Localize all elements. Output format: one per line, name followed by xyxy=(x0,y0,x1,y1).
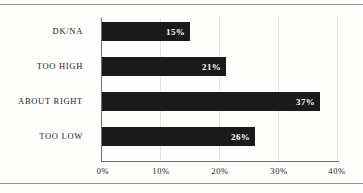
bar-value-label: 21% xyxy=(202,62,221,72)
category-label-too-high: TOO HIGH xyxy=(0,57,92,76)
bar-row: 21% xyxy=(101,57,338,76)
x-axis-line xyxy=(101,161,339,162)
x-tick-label-10: 10% xyxy=(141,166,181,176)
bar-row: 37% xyxy=(101,92,338,111)
horizontal-bar-chart: 15% 21% 37% 26% DK/NA TOO xyxy=(0,0,363,193)
category-label-dk-na: DK/NA xyxy=(0,22,92,41)
bar-row: 26% xyxy=(101,127,338,146)
bar-too-high[interactable]: 21% xyxy=(101,57,226,76)
x-tick-label-40: 40% xyxy=(317,166,357,176)
bar-value-label: 37% xyxy=(296,97,315,107)
chart-page: 15% 21% 37% 26% DK/NA TOO xyxy=(0,0,363,193)
x-tick-label-20: 20% xyxy=(200,166,240,176)
bar-value-label: 15% xyxy=(166,27,185,37)
bar-about-right[interactable]: 37% xyxy=(101,92,320,111)
x-tick-label-0: 0% xyxy=(83,166,123,176)
category-label-about-right: ABOUT RIGHT xyxy=(0,92,92,111)
bar-row: 15% xyxy=(101,22,338,41)
plot-area: 15% 21% 37% 26% xyxy=(101,18,338,162)
y-axis-line xyxy=(101,18,102,162)
bar-too-low[interactable]: 26% xyxy=(101,127,255,146)
x-tick-label-30: 30% xyxy=(259,166,299,176)
category-label-too-low: TOO LOW xyxy=(0,127,92,146)
bar-dk-na[interactable]: 15% xyxy=(101,22,190,41)
bar-value-label: 26% xyxy=(231,132,250,142)
